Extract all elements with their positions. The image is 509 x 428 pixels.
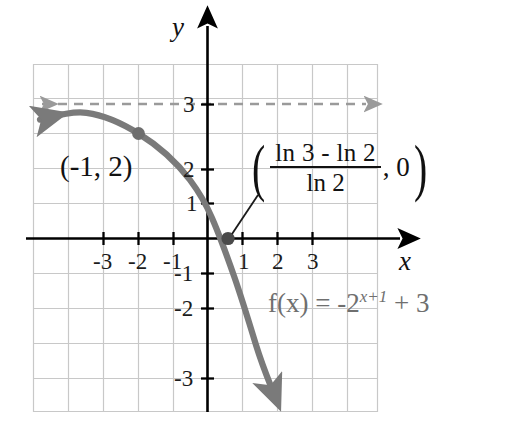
fraction-denominator: ln 2 xyxy=(301,168,349,195)
point-dot-minus1-2 xyxy=(132,127,145,140)
x-tick-2: 2 xyxy=(272,250,284,273)
y-tick-1: 1 xyxy=(186,192,198,215)
point-label-minus1-2: (-1, 2) xyxy=(60,152,132,181)
x-tick-minus3: -3 xyxy=(93,250,112,273)
function-equation-label: f(x) = -2x+1 + 3 xyxy=(268,288,429,317)
y-tick-3: 3 xyxy=(183,93,195,116)
y-tick-minus1: -1 xyxy=(174,262,193,285)
graph-figure: y x -3 -2 -1 1 2 3 3 2 1 -1 -2 -3 (-1, 2… xyxy=(0,0,509,428)
coordinate-plane-svg xyxy=(0,0,509,428)
x-tick-3: 3 xyxy=(307,250,319,273)
y-tick-minus3: -3 xyxy=(174,367,193,390)
y-axis-label: y xyxy=(172,14,184,41)
equation-body: f(x) = -2 xyxy=(268,288,360,318)
y-tick-2: 2 xyxy=(183,158,195,181)
point-label-x-intercept: ( ln 3 - ln 2 ln 2 , 0 ) xyxy=(248,140,431,195)
coord-open-paren: ( xyxy=(252,143,265,193)
equation-tail: + 3 xyxy=(387,288,429,318)
coord-fraction: ln 3 - ln 2 ln 2 xyxy=(270,140,381,195)
x-tick-minus2: -2 xyxy=(128,250,147,273)
fraction-numerator: ln 3 - ln 2 xyxy=(270,140,381,166)
x-tick-1: 1 xyxy=(238,250,250,273)
equation-exponent: x+1 xyxy=(360,287,388,306)
coord-close-paren: ) xyxy=(414,143,427,193)
y-tick-minus2: -2 xyxy=(174,297,193,320)
coord-second-value: , 0 xyxy=(383,154,410,181)
x-axis-label: x xyxy=(399,248,411,275)
